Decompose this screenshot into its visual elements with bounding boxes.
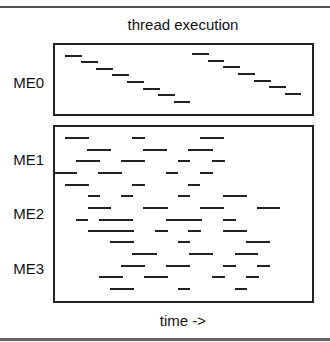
thread-dashes xyxy=(0,0,330,342)
x-axis-label: time -> xyxy=(53,312,313,329)
bottom-rule xyxy=(0,338,330,341)
